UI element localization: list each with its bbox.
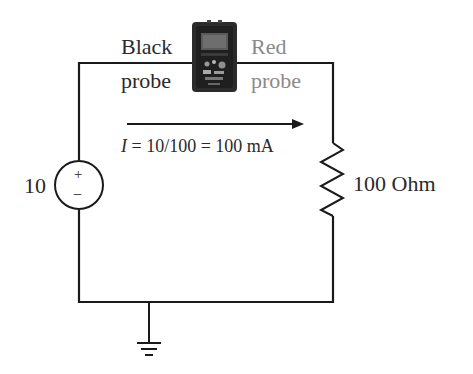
current-expression: = 10/100 = 100 mA [127,136,274,156]
source-minus-sign: − [73,187,82,203]
source-plus-sign: + [74,167,82,182]
multimeter-icon [192,20,237,92]
red-probe-label-line1: Red [251,36,286,58]
red-probe-label-line2: probe [251,70,301,92]
resistor-icon [321,143,343,216]
current-arrow-icon [127,119,304,129]
resistor-value-label: 100 Ohm [353,173,436,195]
source-value-label: 10 [24,175,46,197]
current-equation: I = 10/100 = 100 mA [121,137,274,155]
ground-icon [137,302,161,355]
black-probe-label-line2: probe [121,70,171,92]
black-probe-label-line1: Black [121,36,172,58]
